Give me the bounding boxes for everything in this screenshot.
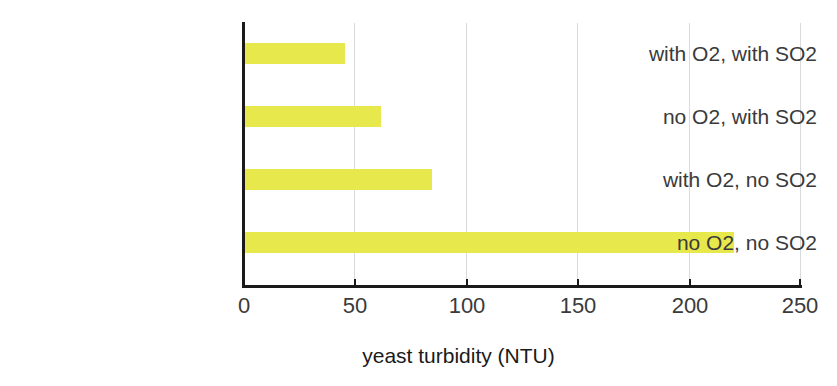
bar-no-o2-with-so2 xyxy=(242,106,381,127)
x-axis-title: yeast turbidity (NTU) xyxy=(0,344,837,368)
x-axis-title-text: yeast turbidity (NTU) xyxy=(362,344,555,368)
bar-with-o2-with-so2 xyxy=(242,43,345,64)
x-tick-label-1: 50 xyxy=(343,294,367,318)
x-axis-line xyxy=(242,285,802,288)
tick-50 xyxy=(354,279,356,286)
category-label-3: no O2, no SO2 xyxy=(597,232,817,253)
x-tick-label-5: 250 xyxy=(782,294,819,318)
category-label-1: no O2, with SO2 xyxy=(597,106,817,127)
category-label-2: with O2, no SO2 xyxy=(597,169,817,190)
x-tick-label-0: 0 xyxy=(238,294,250,318)
tick-200 xyxy=(689,279,691,286)
x-tick-label-2: 100 xyxy=(449,294,486,318)
x-tick-label-4: 200 xyxy=(672,294,709,318)
tick-0 xyxy=(243,279,245,286)
tick-250 xyxy=(799,279,801,286)
bar-with-o2-no-so2 xyxy=(242,169,432,190)
category-label-0: with O2, with SO2 xyxy=(597,43,817,64)
y-axis-line xyxy=(242,22,245,288)
x-tick-label-3: 150 xyxy=(560,294,597,318)
bar-chart: with O2, with SO2 no O2, with SO2 with O… xyxy=(0,0,837,386)
tick-100 xyxy=(466,279,468,286)
tick-150 xyxy=(577,279,579,286)
